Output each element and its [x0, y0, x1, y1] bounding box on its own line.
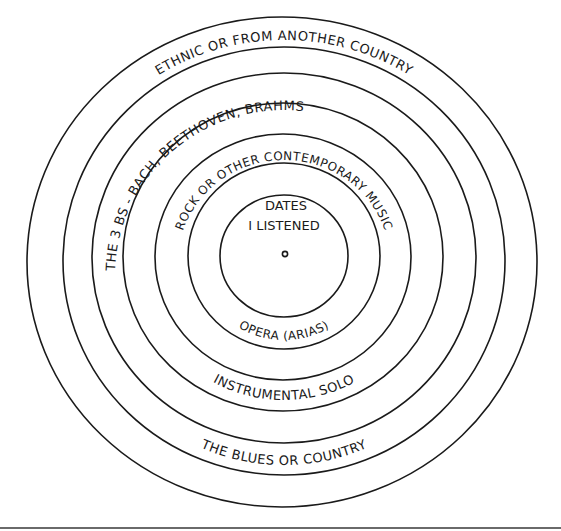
label-blues-text: THE BLUES OR COUNTRY: [198, 436, 368, 468]
label-opera: OPERA (ARIAS): [237, 318, 331, 343]
ring-7: [27, 17, 537, 507]
label-ethnic-text: ETHNIC OR FROM ANOTHER COUNTRY: [152, 28, 415, 78]
label-instrumental: INSTRUMENTAL SOLO: [211, 371, 357, 403]
center-label-line2: I LISTENED: [248, 218, 319, 233]
label-instrumental-text: INSTRUMENTAL SOLO: [211, 371, 357, 403]
center-dot-icon: [282, 251, 287, 256]
center-label-line1: DATES: [265, 198, 307, 213]
footer-rule-divider: [0, 527, 561, 529]
label-blues: THE BLUES OR COUNTRY: [198, 436, 368, 468]
label-ethnic: ETHNIC OR FROM ANOTHER COUNTRY: [152, 28, 415, 78]
label-opera-text: OPERA (ARIAS): [237, 318, 331, 343]
ring-5: [92, 73, 476, 443]
concentric-target-diagram: DATES I LISTENED ETHNIC OR FROM ANOTHER …: [0, 0, 561, 531]
ring-3: [155, 134, 411, 380]
